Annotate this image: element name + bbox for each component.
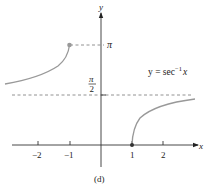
- figure-caption: (d): [94, 174, 105, 184]
- pi-half-numerator: π: [89, 74, 94, 84]
- pi-half-denominator: 2: [90, 84, 95, 94]
- endpoint-1-0: [130, 143, 134, 147]
- x-axis-label: x: [198, 141, 203, 151]
- endpoint-neg1-pi: [67, 43, 72, 48]
- tick-label-m1: −1: [64, 150, 74, 160]
- right-branch-curve: [132, 99, 195, 145]
- y-axis-arrow-icon: [99, 12, 103, 18]
- tick-label-m2: −2: [32, 150, 42, 160]
- tick-label-2: 2: [161, 150, 166, 160]
- pi-label: π: [107, 39, 113, 50]
- y-axis-label: y: [98, 2, 103, 12]
- sec-inverse-graph: y x π π 2 y = sec−1x −2 −1 1 2 (d): [0, 0, 205, 187]
- left-branch-curve: [5, 45, 70, 84]
- function-label: y = sec−1x: [148, 65, 188, 77]
- tick-label-1: 1: [130, 150, 135, 160]
